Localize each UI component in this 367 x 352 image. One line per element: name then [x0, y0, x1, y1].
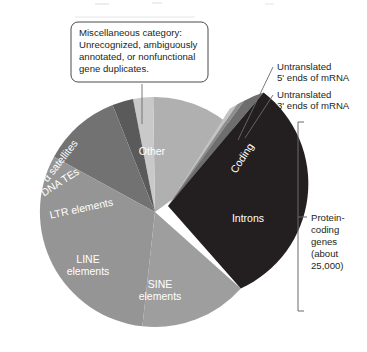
utr5-label-line-2: 5' ends of mRNA — [277, 72, 350, 83]
pie-label-other: Other — [139, 145, 166, 157]
pie-label-introns: Introns — [232, 212, 264, 224]
bracket-label-line-3: genes — [311, 236, 337, 247]
callout-line-4: gene duplicates. — [79, 63, 149, 74]
callout-line-2: Unrecognized, ambiguously — [79, 39, 198, 50]
bracket-label-line-5: 25,000) — [311, 260, 344, 271]
pie-label-sine-elements-2: elements — [139, 290, 182, 302]
pie-label-line-elements-1: LINE — [76, 253, 99, 265]
utr3-label-line-2: 3' ends of mRNA — [277, 100, 350, 111]
utr3-label-line-1: Untranslated — [277, 89, 331, 100]
pie-chart-figure: Other α satellites DNA TEs LTR elements … — [0, 0, 367, 352]
callout-line-1: Miscellaneous category: — [79, 27, 182, 38]
bracket-label-line-1: Protein- — [311, 212, 345, 223]
bracket-label-line-4: (about — [311, 248, 339, 259]
utr5-label-line-1: Untranslated — [277, 61, 331, 72]
pie-label-line-elements-2: elements — [67, 265, 110, 277]
scan-artifacts — [75, 2, 274, 18]
protein-coding-bracket-annotation: Protein- coding genes (about 25,000) — [298, 122, 345, 311]
figure-root: Other α satellites DNA TEs LTR elements … — [0, 0, 367, 352]
bracket-label-line-2: coding — [311, 224, 339, 235]
pie-label-sine-elements-1: SINE — [148, 278, 173, 290]
callout-line-3: annotated, or nonfunctional — [79, 51, 195, 62]
